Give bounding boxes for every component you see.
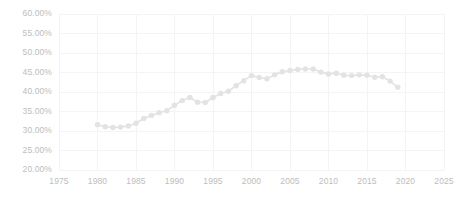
data-point-marker [195, 99, 200, 104]
x-axis-tick-label: 1985 [116, 176, 156, 186]
data-point-marker [264, 76, 269, 81]
y-axis-tick-label: 40.00% [8, 86, 52, 96]
data-point-marker [126, 123, 131, 128]
x-axis-tick-label: 2010 [309, 176, 349, 186]
x-axis-tick-label: 2015 [347, 176, 387, 186]
data-point-marker [326, 71, 331, 76]
data-point-marker [380, 74, 385, 79]
y-axis-tick-label: 20.00% [8, 164, 52, 174]
data-point-marker [349, 73, 354, 78]
data-point-marker [387, 78, 392, 83]
x-axis-tick-label: 1995 [193, 176, 233, 186]
data-point-marker [95, 122, 100, 127]
data-point-marker [372, 74, 377, 79]
data-point-marker [210, 95, 215, 100]
data-point-marker [226, 89, 231, 94]
data-point-marker [318, 69, 323, 74]
data-point-marker [103, 124, 108, 129]
data-point-marker [172, 103, 177, 108]
x-axis-tick-label: 1975 [39, 176, 79, 186]
data-point-marker [187, 95, 192, 100]
y-axis-tick-label: 25.00% [8, 145, 52, 155]
data-point-marker [203, 100, 208, 105]
data-point-marker [303, 66, 308, 71]
x-axis-tick-label: 2000 [232, 176, 272, 186]
data-point-marker [164, 108, 169, 113]
grid-lines [59, 14, 444, 170]
data-point-marker [395, 85, 400, 90]
data-point-marker [272, 72, 277, 77]
data-point-marker [233, 83, 238, 88]
data-point-marker [218, 91, 223, 96]
data-point-marker [156, 110, 161, 115]
data-point-marker [295, 67, 300, 72]
data-point-marker [133, 121, 138, 126]
data-point-marker [341, 73, 346, 78]
data-point-marker [241, 78, 246, 83]
data-point-marker [364, 73, 369, 78]
data-point-marker [287, 68, 292, 73]
data-point-marker [110, 125, 115, 130]
x-axis-tick-label: 1980 [78, 176, 118, 186]
data-point-marker [257, 75, 262, 80]
data-point-marker [118, 124, 123, 129]
data-point-marker [280, 69, 285, 74]
y-axis-tick-label: 50.00% [8, 47, 52, 57]
y-axis-tick-label: 35.00% [8, 106, 52, 116]
data-point-marker [310, 66, 315, 71]
data-point-marker [334, 71, 339, 76]
x-axis-tick-label: 2025 [424, 176, 458, 186]
x-axis-tick-label: 2005 [270, 176, 310, 186]
y-axis-tick-label: 30.00% [8, 125, 52, 135]
y-axis-tick-label: 45.00% [8, 67, 52, 77]
x-axis-tick-label: 1990 [155, 176, 195, 186]
data-point-marker [141, 116, 146, 121]
y-axis-tick-label: 55.00% [8, 28, 52, 38]
data-point-marker [180, 98, 185, 103]
y-axis-tick-label: 60.00% [8, 8, 52, 18]
data-point-marker [357, 72, 362, 77]
data-point-marker [249, 73, 254, 78]
x-axis-tick-label: 2020 [386, 176, 426, 186]
data-point-marker [149, 113, 154, 118]
